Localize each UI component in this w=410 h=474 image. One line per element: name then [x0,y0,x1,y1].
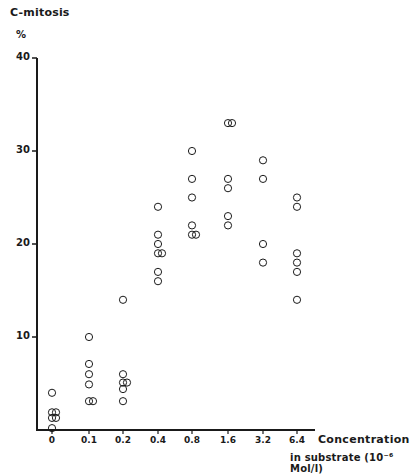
data-point-circle [224,185,231,192]
data-point-circle [119,398,126,405]
data-point-circle [224,213,231,220]
data-point-circle [293,250,300,257]
data-point-circle [85,333,92,340]
data-point-circle [259,157,266,164]
data-point-circle [259,240,266,247]
data-point-circle [293,268,300,275]
data-point-circle [85,371,92,378]
data-point-circle [154,203,161,210]
data-point-circle [154,268,161,275]
data-point-circle [293,194,300,201]
data-point-circle [259,175,266,182]
data-point-circle [293,259,300,266]
data-point-circle [259,259,266,266]
data-point-circle [154,231,161,238]
data-point-circle [188,222,195,229]
data-point-circle [188,175,195,182]
data-point-circle [293,203,300,210]
data-point-circle [85,381,92,388]
data-point-circle [85,360,92,367]
data-point-circle [119,371,126,378]
data-point-circle [119,296,126,303]
data-point-circle [224,222,231,229]
data-point-circle [48,389,55,396]
data-points [48,120,300,432]
data-point-circle [224,175,231,182]
data-point-circle [188,194,195,201]
data-point-circle [154,240,161,247]
axes [32,58,315,434]
data-point-circle [188,147,195,154]
data-point-circle [154,278,161,285]
data-point-circle [293,296,300,303]
